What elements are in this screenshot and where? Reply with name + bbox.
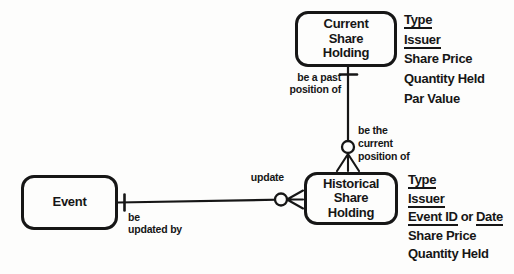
optional-circle-icon <box>275 194 287 206</box>
attribute-issuer: Issuer <box>408 190 503 209</box>
relationship-label-update: update <box>251 172 284 184</box>
entity-current-share-holding: Current Share Holding <box>295 11 397 67</box>
relationship-line <box>118 200 287 203</box>
crow-foot-icon <box>337 154 359 171</box>
relationship-label-be-a-past-position-of: be a past position of <box>290 72 341 96</box>
rel-event-historical <box>118 191 303 211</box>
entity-name: Current Share Holding <box>323 17 369 61</box>
optional-circle-icon <box>342 141 354 153</box>
relationship-label-be-updated-by: be updated by <box>128 212 182 236</box>
attribute-list-historical-share-holding: Type Issuer Event IDorDate Share Price Q… <box>408 171 503 264</box>
entity-name: Historical Share Holding <box>323 177 379 221</box>
attribute-issuer: Issuer <box>404 30 485 50</box>
attribute-list-current-share-holding: Type Issuer Share Price Quantity Held Pa… <box>404 10 485 109</box>
attribute-type: Type <box>404 10 485 30</box>
crow-foot-icon <box>287 191 303 209</box>
attribute-quantity-held: Quantity Held <box>408 245 503 264</box>
attribute-par-value: Par Value <box>404 89 485 109</box>
entity-event: Event <box>21 175 118 230</box>
erd-canvas: Current Share Holding Historical Share H… <box>0 0 514 274</box>
attribute-type: Type <box>408 171 503 190</box>
relationship-label-be-the-current-position-of: be the current position of <box>358 124 409 164</box>
entity-historical-share-holding: Historical Share Holding <box>304 172 398 225</box>
entity-name: Event <box>53 195 87 210</box>
attribute-share-price: Share Price <box>404 49 485 69</box>
attribute-event-id-or-date: Event IDorDate <box>408 208 503 227</box>
attribute-quantity-held: Quantity Held <box>404 69 485 89</box>
attribute-share-price: Share Price <box>408 227 503 246</box>
